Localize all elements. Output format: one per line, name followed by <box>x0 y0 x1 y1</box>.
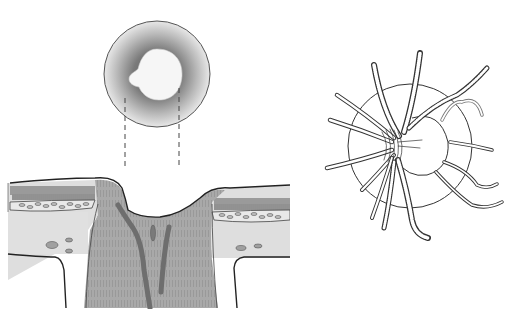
retinal-arteries <box>327 95 502 218</box>
vessel-view-panel <box>312 50 508 250</box>
dura-outline-right <box>234 257 290 308</box>
vessel-group <box>327 53 502 238</box>
nerve-fiber-layer-left <box>10 186 95 195</box>
left-retina-section <box>8 180 98 308</box>
fundus-disc-panel <box>95 12 220 137</box>
optic-disc-fundus-illustration <box>95 12 220 137</box>
vessel-branch-cross-section <box>151 225 156 241</box>
retinal-vessels-illustration <box>312 50 508 250</box>
right-retina-section <box>210 185 290 308</box>
optic-nerve-body <box>84 180 225 308</box>
photoreceptor-layer-left <box>12 194 95 200</box>
photoreceptor-layer-right <box>214 204 290 210</box>
optic-nerve-cross-section-illustration <box>0 160 290 309</box>
cross-section-panel <box>0 160 290 309</box>
